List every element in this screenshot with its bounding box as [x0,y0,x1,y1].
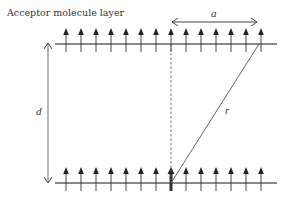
arrowhead-icon [123,28,129,35]
bottom-donor-layer [55,167,277,191]
arrowhead-icon [198,167,204,174]
arrowhead-icon [183,28,189,35]
arrowhead-icon [138,28,144,35]
arrowhead-icon [108,28,114,35]
top-dipole-arrows [63,28,264,52]
arrowhead-icon [93,28,99,35]
arrowhead-icon [258,28,264,35]
diagram-canvas [0,0,287,202]
arrowhead-icon [63,167,69,174]
arrowhead-icon [198,28,204,35]
arrowhead-icon [153,167,159,174]
arrowhead-icon [78,28,84,35]
arrowhead-icon [228,167,234,174]
arrowhead-icon [213,28,219,35]
label-a: a [211,7,217,19]
distance-r-line [171,44,259,183]
arrowhead-icon [243,167,249,174]
arrowhead-icon [138,167,144,174]
arrowhead-icon [123,167,129,174]
arrowhead-icon [213,167,219,174]
arrowhead-icon [78,167,84,174]
arrowhead-icon [183,167,189,174]
diagram: Acceptor molecule layer [0,0,287,202]
label-d: d [36,105,42,117]
arrowhead-icon [63,28,69,35]
arrowhead-icon [243,28,249,35]
arrowhead-icon [258,167,264,174]
bottom-dipole-arrows [63,167,264,191]
arrowhead-icon [108,167,114,174]
arrowhead-icon [168,28,174,35]
top-acceptor-layer [55,28,277,52]
label-r: r [225,104,229,116]
arrowhead-icon [93,167,99,174]
arrowhead-icon [228,28,234,35]
arrowhead-icon [153,28,159,35]
